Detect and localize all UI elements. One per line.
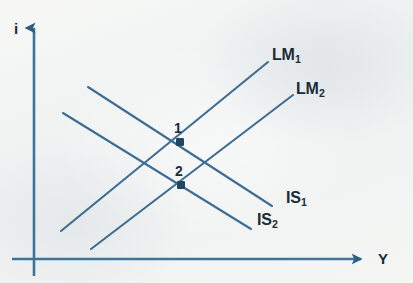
isml-diagram-figure: i Y LM1 LM2 IS1 IS2 1 2 — [0, 0, 413, 283]
chart-canvas — [0, 0, 413, 283]
curve-label-lm1-base: LM — [272, 46, 295, 63]
curve-label-lm2-subscript: 2 — [319, 87, 325, 99]
equilibrium-point-2-marker — [177, 181, 185, 189]
curve-label-is2: IS2 — [257, 212, 277, 228]
curve-label-is2-base: IS — [257, 211, 272, 228]
curve-label-lm1-subscript: 1 — [295, 53, 301, 65]
curve-label-is1-subscript: 1 — [301, 196, 307, 208]
equilibrium-point-1-label: 1 — [174, 121, 182, 135]
curve-label-is1: IS1 — [286, 190, 306, 206]
y-axis-label: i — [14, 21, 18, 36]
equilibrium-point-2-label: 2 — [175, 164, 183, 178]
curve-label-is2-subscript: 2 — [272, 218, 278, 230]
curve-label-lm1: LM1 — [272, 47, 300, 63]
axis-group — [12, 28, 361, 276]
x-axis-label: Y — [378, 251, 388, 266]
equilibrium-point-1-marker — [176, 138, 184, 146]
curve-label-lm2-base: LM — [296, 80, 319, 97]
curve-label-is1-base: IS — [286, 189, 301, 206]
curve-label-lm2: LM2 — [296, 81, 324, 97]
curve-lm1 — [61, 62, 268, 231]
